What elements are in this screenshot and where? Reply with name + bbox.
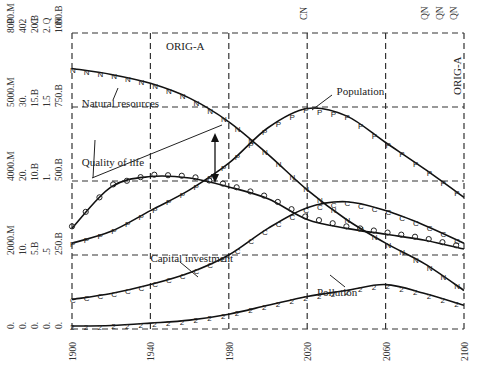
- capital-investment-marker: C: [111, 290, 117, 299]
- natural-resources-marker: N: [303, 185, 309, 194]
- pollution-marker: 2: [386, 282, 391, 291]
- natural-resources-marker: N: [125, 75, 131, 84]
- x-tick-label: 1900: [68, 342, 78, 361]
- capital-investment-marker: C: [70, 296, 76, 305]
- capital-investment-marker: C: [358, 202, 364, 211]
- world-model-chart: P0.2000.M4000.M5000.M8000.M20.10.20.30.4…: [0, 0, 481, 369]
- natural-resources-marker: N: [166, 87, 172, 96]
- population-marker: P: [97, 232, 102, 241]
- pollution-marker: 2: [221, 312, 226, 321]
- capital-investment-marker: C: [331, 201, 337, 210]
- y-tick-label: 10.: [18, 243, 28, 255]
- x-tick-label: 2020: [303, 342, 313, 361]
- population-marker: P: [440, 179, 445, 188]
- population-marker: P: [166, 198, 171, 207]
- pollution-marker: 2: [399, 285, 404, 294]
- x-tick-label: 2100: [460, 342, 470, 361]
- x-axis-labels: 190019401980202020602100: [68, 342, 470, 361]
- natural-resources-marker: N: [427, 264, 433, 273]
- pollution-marker: 2: [193, 316, 198, 325]
- y-tick-label: 750.B: [54, 84, 64, 107]
- pollution-marker: 2: [372, 283, 377, 292]
- capital-investment-marker: C: [440, 230, 446, 239]
- population-marker: P: [427, 169, 432, 178]
- y-tick-label: 15.B: [30, 89, 40, 107]
- natural-resources-marker: N: [221, 115, 227, 124]
- y-tick-label: 1.: [42, 174, 52, 181]
- population-marker: P: [235, 153, 240, 162]
- population-marker: P: [454, 189, 459, 198]
- y-tick-label: 40.: [18, 21, 28, 33]
- right-scenario-label: ORIG-A: [451, 56, 463, 95]
- population-marker: P: [344, 113, 349, 122]
- natural-resources-marker: N: [193, 99, 199, 108]
- pollution-marker: 2: [111, 322, 116, 331]
- y-tick-label: .5: [42, 248, 52, 255]
- capital-investment-marker: C: [97, 292, 103, 301]
- population-marker: P: [290, 113, 295, 122]
- natural-resources-marker: N: [139, 78, 145, 87]
- y-tick-label: 20.: [18, 169, 28, 181]
- pollution-marker: 2: [235, 309, 240, 318]
- population-marker: P: [317, 108, 322, 117]
- natural-resources-marker: N: [97, 70, 103, 79]
- capital-investment-marker: C: [193, 267, 199, 276]
- population-marker: P: [399, 150, 404, 159]
- natural-resources-marker: N: [70, 66, 76, 75]
- pollution-marker: 2: [180, 318, 185, 327]
- series-annotation: Pollution: [317, 286, 358, 298]
- capital-investment-marker: C: [372, 205, 378, 214]
- capital-investment-marker: C: [290, 213, 296, 222]
- natural-resources-marker: N: [276, 160, 282, 169]
- capital-investment-marker: C: [317, 203, 323, 212]
- quality-tangent-line: [92, 125, 222, 178]
- population-marker: P: [193, 183, 198, 192]
- pollution-marker: 2: [125, 322, 130, 331]
- x-tick-label: 1980: [225, 342, 235, 361]
- capital-investment-marker: C: [262, 228, 268, 237]
- capital-investment-marker: C: [427, 224, 433, 233]
- scenario-label: ORIG-A: [166, 40, 205, 52]
- y-tick-label: 250.B: [54, 232, 64, 255]
- y-tick-label: 0.: [30, 322, 40, 329]
- y-tick-label: 0.: [54, 322, 64, 329]
- y-tick-label: 20.B: [30, 15, 40, 33]
- pollution-marker: 2: [454, 300, 459, 309]
- pollution-marker: 2: [139, 321, 144, 330]
- capital-investment-marker: C: [454, 237, 460, 246]
- natural-resources-marker: N: [84, 68, 90, 77]
- y-tick-label: 2000.M: [6, 225, 16, 255]
- natural-resources-marker: N: [207, 107, 213, 116]
- population-marker: P: [70, 240, 75, 249]
- population-marker: P: [358, 122, 363, 131]
- pollution-marker: 2: [358, 285, 363, 294]
- arrow-up-icon: [211, 133, 219, 142]
- pollution-marker: 2: [248, 306, 253, 315]
- pollution-marker: 2: [427, 292, 432, 301]
- capital-investment-marker: C: [152, 280, 158, 289]
- pollution-marker: 2: [166, 319, 171, 328]
- natural-resources-marker: N: [386, 241, 392, 250]
- x-tick-label: 1940: [146, 342, 156, 361]
- capital-investment-marker: C: [413, 219, 419, 228]
- series-capital-investment: [72, 202, 464, 300]
- annotation-pointer: [330, 275, 345, 287]
- quality-marker: [330, 221, 335, 226]
- population-marker: P: [248, 141, 253, 150]
- natural-resources-marker: N: [399, 248, 405, 257]
- series-quality-of-life: [72, 176, 464, 249]
- capital-investment-marker: C: [276, 220, 282, 229]
- y-tick-label: 500.B: [54, 158, 64, 181]
- y-tick-label: 1.5: [42, 95, 52, 107]
- capital-investment-marker: C: [399, 214, 405, 223]
- natural-resources-marker: N: [235, 125, 241, 134]
- population-marker: P: [413, 160, 418, 169]
- natural-resources-marker: N: [413, 256, 419, 265]
- natural-resources-marker: N: [180, 92, 186, 101]
- y-axis-key: Q: [42, 17, 52, 24]
- population-marker: P: [262, 128, 267, 137]
- y-tick-label: 0.: [6, 322, 16, 329]
- population-marker: P: [221, 164, 226, 173]
- population-marker: P: [372, 132, 377, 141]
- pollution-marker: 2: [152, 320, 157, 329]
